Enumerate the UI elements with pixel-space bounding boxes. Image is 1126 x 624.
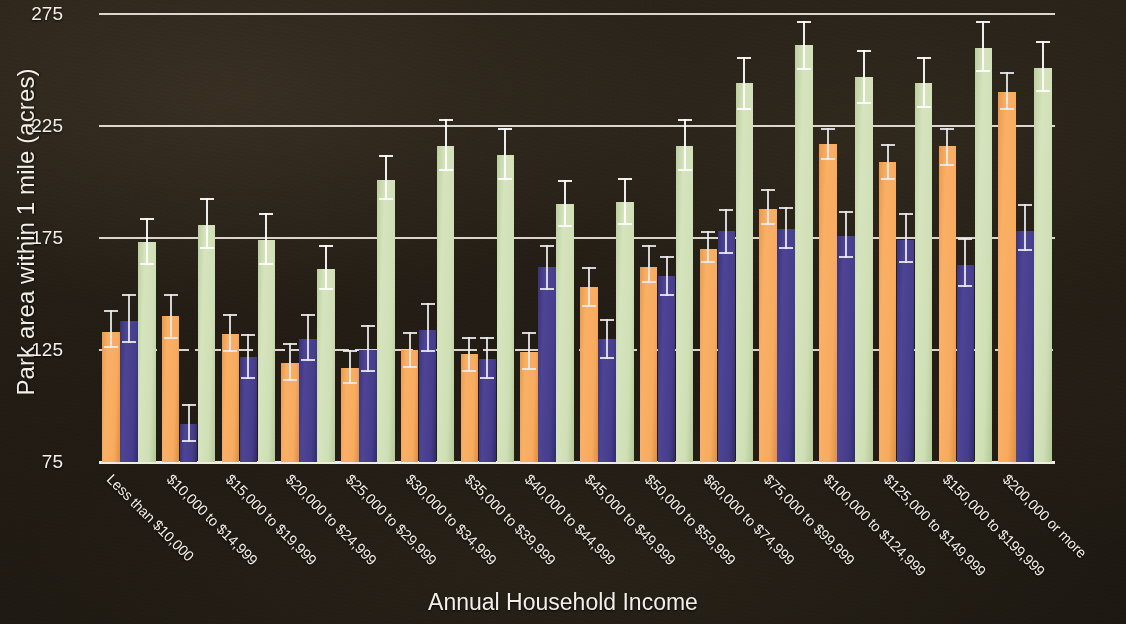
error-bar-series-3 <box>146 218 148 265</box>
bar-group <box>278 14 338 462</box>
y-tick-label-75: 75 <box>0 451 63 473</box>
bar-series-2 <box>957 265 975 462</box>
bar-series-3 <box>437 146 455 462</box>
error-bar-series-1 <box>229 314 231 352</box>
bar-group <box>936 14 996 462</box>
error-bar-series-1 <box>170 294 172 339</box>
error-bar-series-3 <box>1042 41 1044 93</box>
error-bar-series-3 <box>684 119 686 171</box>
error-bar-series-2 <box>964 238 966 287</box>
bar-group <box>159 14 219 462</box>
error-bar-series-2 <box>1024 204 1026 251</box>
error-bar-series-1 <box>468 337 470 373</box>
error-bar-series-1 <box>409 332 411 368</box>
error-bar-series-1 <box>349 350 351 384</box>
bar-series-3 <box>616 202 634 462</box>
bar-group <box>577 14 637 462</box>
bar-group <box>517 14 577 462</box>
bar-group <box>458 14 518 462</box>
bar-series-2 <box>538 267 556 462</box>
bar-series-3 <box>676 146 694 462</box>
error-bar-series-3 <box>265 213 267 265</box>
x-tick-label: $45,000 to $49,999 <box>582 471 679 568</box>
error-bar-series-3 <box>445 119 447 171</box>
error-bar-series-3 <box>982 21 984 73</box>
bar-series-3 <box>556 204 574 462</box>
x-tick-label: $25,000 to $29,999 <box>343 471 440 568</box>
y-tick-label-175: 175 <box>0 227 63 249</box>
bar-series-3 <box>915 83 933 462</box>
error-bar-series-3 <box>923 57 925 109</box>
bar-series-3 <box>198 225 216 462</box>
y-tick-label-275: 275 <box>0 3 63 25</box>
x-tick-label: $125,000 to $149,999 <box>880 471 988 579</box>
bar-group <box>219 14 279 462</box>
bar-series-3 <box>736 83 754 462</box>
error-bar-series-2 <box>546 245 548 290</box>
error-bar-series-2 <box>307 314 309 361</box>
bar-series-3 <box>377 180 395 462</box>
y-tick-label-225: 225 <box>0 115 63 137</box>
error-bar-series-1 <box>827 128 829 159</box>
bar-series-1 <box>939 146 957 462</box>
bar-group <box>637 14 697 462</box>
x-axis-title: Annual Household Income <box>0 589 1126 616</box>
bar-group <box>99 14 159 462</box>
bar-series-2 <box>718 231 736 462</box>
bar-series-1 <box>998 92 1016 462</box>
error-bar-series-2 <box>845 211 847 258</box>
error-bar-series-3 <box>863 50 865 104</box>
error-bar-series-3 <box>624 178 626 225</box>
error-bar-series-2 <box>427 303 429 352</box>
bar-series-3 <box>497 155 515 462</box>
bar-series-1 <box>222 334 240 462</box>
error-bar-series-2 <box>367 325 369 372</box>
error-bar-series-2 <box>905 213 907 262</box>
bar-series-3 <box>258 240 276 462</box>
bar-series-3 <box>1034 68 1052 462</box>
y-tick-label-125: 125 <box>0 339 63 361</box>
error-bar-series-1 <box>887 144 889 180</box>
x-tick-label: Less than $10,000 <box>104 471 197 564</box>
error-bar-series-2 <box>666 256 668 296</box>
bar-series-3 <box>317 269 335 462</box>
error-bar-series-1 <box>767 189 769 225</box>
error-bar-series-3 <box>325 245 327 290</box>
bar-series-1 <box>580 287 598 462</box>
error-bar-series-1 <box>946 128 948 166</box>
error-bar-series-1 <box>110 310 112 348</box>
bar-series-2 <box>837 236 855 462</box>
error-bar-series-1 <box>1006 72 1008 110</box>
bar-series-1 <box>700 249 718 462</box>
bar-group <box>398 14 458 462</box>
error-bar-series-3 <box>564 180 566 227</box>
x-tick-label: $50,000 to $59,999 <box>641 471 738 568</box>
error-bar-series-2 <box>785 207 787 250</box>
bar-series-1 <box>819 144 837 462</box>
bar-series-2 <box>658 276 676 462</box>
error-bar-series-2 <box>188 404 190 442</box>
bar-group <box>697 14 757 462</box>
bar-series-2 <box>1016 231 1034 462</box>
x-tick-label: $150,000 to $199,999 <box>940 471 1048 579</box>
bar-series-2 <box>897 240 915 462</box>
error-bar-series-3 <box>385 155 387 200</box>
error-bar-series-1 <box>528 332 530 370</box>
error-bar-series-2 <box>128 294 130 343</box>
bar-series-2 <box>777 229 795 462</box>
x-tick-label: $200,000 or more <box>1000 471 1090 561</box>
chart-canvas: Park area within 1 mile (acres) Annual H… <box>0 0 1126 624</box>
error-bar-series-2 <box>725 209 727 254</box>
bar-series-3 <box>795 45 813 462</box>
bar-series-3 <box>138 242 156 462</box>
bar-group <box>338 14 398 462</box>
plot-area <box>99 14 1055 462</box>
bar-group <box>756 14 816 462</box>
bar-group <box>876 14 936 462</box>
bar-series-1 <box>879 162 897 462</box>
error-bar-series-1 <box>707 231 709 262</box>
error-bar-series-3 <box>803 21 805 70</box>
x-tick-label: $30,000 to $34,999 <box>402 471 499 568</box>
bar-series-1 <box>759 209 777 462</box>
x-tick-label: $10,000 to $14,999 <box>163 471 260 568</box>
